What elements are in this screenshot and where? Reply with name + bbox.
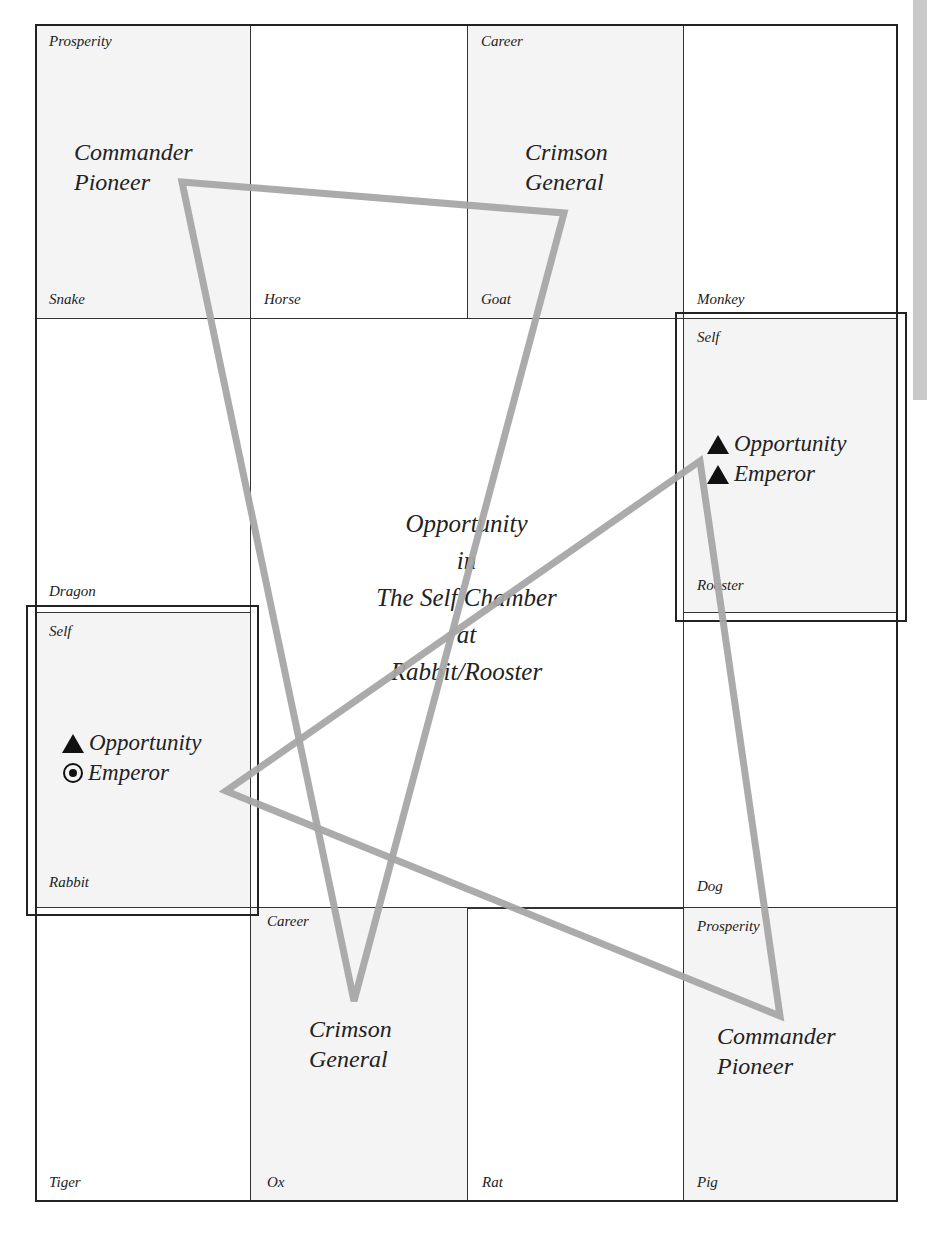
- triangles-overlay: [0, 0, 927, 1234]
- triangle-2: [226, 461, 780, 1016]
